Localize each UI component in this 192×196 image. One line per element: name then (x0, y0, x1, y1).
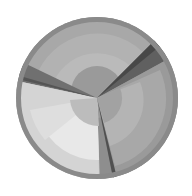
disc-render (0, 0, 192, 196)
